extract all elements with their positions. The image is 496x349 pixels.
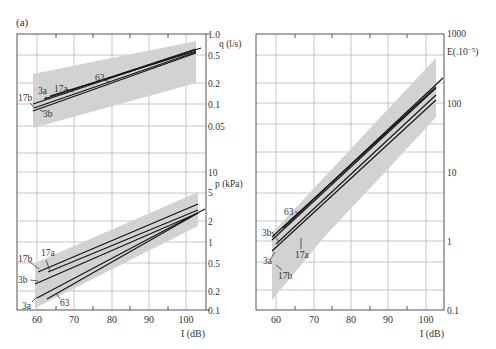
e-axis-label: E(.10−5) xyxy=(447,46,478,58)
e-line-3b xyxy=(272,87,436,237)
e-axis: 1000 E(.10−5) 100 10 1 0.1 xyxy=(447,29,478,316)
right-x-axis-label: I (dB) xyxy=(420,328,444,340)
left-x-tick-60: 60 xyxy=(32,314,42,325)
p-tick-0.2: 0.2 xyxy=(208,287,220,297)
q-tick-0.2: 0.2 xyxy=(208,79,220,89)
e-label-17a: 17a xyxy=(295,250,310,260)
p-axis: 10 p (kPa) 5 2 1 0.5 0.2 0.1 xyxy=(208,168,243,316)
q-tick-0.05: 0.05 xyxy=(208,122,225,132)
e-line-17a xyxy=(276,95,436,244)
right-panel: 1000 E(.10−5) 100 10 1 0.1 60 70 80 90 1… xyxy=(256,29,478,340)
e-scatter-band xyxy=(272,58,436,300)
left-panel: 1.0 q (l/s) 0.5 0.2 0.1 0.05 10 p (kPa) … xyxy=(17,30,243,340)
e-tick-1: 1 xyxy=(447,237,452,247)
p-line-3b xyxy=(35,213,198,284)
left-x-tick-70: 70 xyxy=(69,314,79,325)
right-x-tick-60: 60 xyxy=(271,314,281,325)
left-x-tick-90: 90 xyxy=(144,314,154,325)
q-tick-0.1: 0.1 xyxy=(208,100,220,110)
p-tick-0.1: 0.1 xyxy=(208,306,220,316)
e-label-3b: 3b xyxy=(262,228,272,238)
e-line-3a xyxy=(272,88,436,240)
e-line-17b xyxy=(272,100,436,251)
e-label-63: 63 xyxy=(284,207,294,217)
q-label-3b: 3b xyxy=(43,109,53,119)
e-tick-100: 100 xyxy=(447,99,462,109)
p-label-3a: 3a xyxy=(22,301,32,311)
left-x-axis-label: I (dB) xyxy=(181,328,205,340)
e-label-17b: 17b xyxy=(278,271,293,281)
q-axis-label: q (l/s) xyxy=(219,39,241,50)
p-tick-5: 5 xyxy=(208,188,213,198)
right-x-tick-70: 70 xyxy=(309,314,319,325)
left-x-tick-100: 100 xyxy=(179,314,194,325)
p-tick-1: 1 xyxy=(208,238,213,248)
q-tick-0.5: 0.5 xyxy=(208,51,220,61)
panel-label: (a) xyxy=(16,16,29,29)
p-axis-label: p (kPa) xyxy=(215,179,243,190)
q-label-3a: 3a xyxy=(38,86,48,96)
p-tick-10: 10 xyxy=(208,168,218,178)
p-label-3b: 3b xyxy=(18,275,28,285)
right-x-tick-100: 100 xyxy=(419,314,434,325)
p-tick-0.5: 0.5 xyxy=(208,259,220,269)
right-x-axis: 60 70 80 90 100 I (dB) xyxy=(271,314,444,340)
right-x-tick-80: 80 xyxy=(346,314,356,325)
e-tick-1000: 1000 xyxy=(447,29,466,39)
p-tick-2: 2 xyxy=(208,217,213,227)
e-tick-10: 10 xyxy=(447,168,457,178)
figure: (a) xyxy=(0,0,496,349)
q-label-63: 63 xyxy=(95,73,105,83)
p-label-63: 63 xyxy=(60,298,70,308)
right-x-tick-90: 90 xyxy=(383,314,393,325)
e-tick-0.1: 0.1 xyxy=(447,306,459,316)
left-x-axis: 60 70 80 90 100 I (dB) xyxy=(32,314,205,340)
q-axis: 1.0 q (l/s) 0.5 0.2 0.1 0.05 xyxy=(208,30,241,132)
q-label-17b: 17b xyxy=(18,93,33,103)
left-x-tick-80: 80 xyxy=(107,314,117,325)
p-label-17a: 17a xyxy=(41,248,56,258)
